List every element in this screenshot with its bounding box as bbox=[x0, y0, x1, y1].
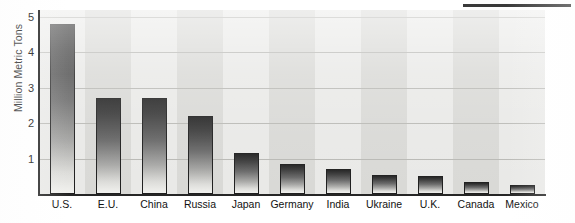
bar bbox=[326, 169, 351, 194]
bar bbox=[280, 164, 305, 194]
y-tick-label: 1 bbox=[4, 153, 34, 165]
x-tick-label: Germany bbox=[270, 198, 313, 210]
x-axis-line bbox=[38, 194, 546, 196]
bar bbox=[418, 176, 443, 194]
background-band bbox=[361, 10, 407, 194]
bar bbox=[50, 24, 75, 194]
bar bbox=[188, 116, 213, 194]
x-tick-label: Mexico bbox=[505, 198, 538, 210]
background-band bbox=[499, 10, 545, 194]
top-rule-divider bbox=[463, 4, 571, 7]
x-tick-label: U.K. bbox=[420, 198, 440, 210]
y-axis-tick-labels: 12345 bbox=[0, 0, 34, 223]
x-tick-label: U.S. bbox=[52, 198, 72, 210]
y-tick-label: 3 bbox=[4, 82, 34, 94]
y-tick-label: 4 bbox=[4, 46, 34, 58]
bar bbox=[142, 98, 167, 194]
bar bbox=[372, 175, 397, 194]
bar-chart-figure: Million Metric Tons 12345 U.S.E.U.ChinaR… bbox=[0, 0, 575, 223]
bar bbox=[510, 185, 535, 194]
x-tick-label: Canada bbox=[458, 198, 495, 210]
y-tick-label: 2 bbox=[4, 117, 34, 129]
gridline bbox=[39, 88, 545, 89]
x-tick-label: Japan bbox=[232, 198, 261, 210]
x-tick-label: India bbox=[327, 198, 350, 210]
gridline bbox=[39, 17, 545, 18]
bar bbox=[234, 153, 259, 194]
background-band bbox=[315, 10, 361, 194]
gridline bbox=[39, 52, 545, 53]
y-tick-label: 5 bbox=[4, 11, 34, 23]
background-band bbox=[407, 10, 453, 194]
bar bbox=[464, 182, 489, 194]
x-tick-label: Ukraine bbox=[366, 198, 402, 210]
plot-area bbox=[39, 10, 545, 194]
x-tick-label: China bbox=[140, 198, 167, 210]
x-tick-label: E.U. bbox=[98, 198, 118, 210]
x-tick-label: Russia bbox=[184, 198, 216, 210]
background-band bbox=[453, 10, 499, 194]
y-axis-line bbox=[38, 10, 40, 195]
bar bbox=[96, 98, 121, 194]
